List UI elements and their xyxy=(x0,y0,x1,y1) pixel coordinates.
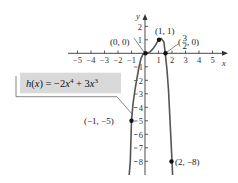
svg-text:2: 2 xyxy=(170,55,174,65)
svg-text:4: 4 xyxy=(197,55,202,65)
svg-text:3: 3 xyxy=(139,89,143,99)
svg-text:(: ( xyxy=(178,37,181,47)
point-label-root: ( 3 2 , 0) xyxy=(178,33,199,51)
svg-text:−5: −5 xyxy=(73,55,82,65)
svg-text:4: 4 xyxy=(139,103,144,113)
point-label-left: (−1, −5) xyxy=(84,116,114,126)
svg-text:2: 2 xyxy=(138,22,142,32)
point-right xyxy=(169,159,173,163)
svg-text:2: 2 xyxy=(139,76,143,86)
svg-text:1: 1 xyxy=(156,55,160,65)
function-label: h(x) = −2x4 + 3x3 xyxy=(26,77,99,90)
svg-text:3: 3 xyxy=(183,55,187,65)
x-axis-label: x xyxy=(221,58,226,68)
svg-text:−2: −2 xyxy=(113,55,122,65)
svg-text:7: 7 xyxy=(139,143,143,153)
x-tick-labels: −5 −4 −3 −2 −1 1 2 3 4 5 xyxy=(73,55,215,65)
svg-text:−1: −1 xyxy=(127,55,136,65)
point-local-max xyxy=(157,38,161,42)
y-tick-labels: 2 1 1 2 3 4 5 6 7 8 xyxy=(138,22,144,167)
svg-text:5: 5 xyxy=(139,116,143,126)
svg-text:6: 6 xyxy=(139,130,143,140)
svg-text:−4: −4 xyxy=(86,55,96,65)
point-origin xyxy=(143,51,147,55)
function-graph: x y −5 −4 −3 −2 −1 1 2 3 4 5 xyxy=(0,0,238,183)
svg-text:8: 8 xyxy=(139,157,143,167)
point-label-max: (1, 1) xyxy=(155,26,175,36)
svg-text:1: 1 xyxy=(138,35,142,45)
y-axis-label: y xyxy=(135,11,140,21)
point-left xyxy=(129,119,133,123)
point-label-right: (2, −8) xyxy=(175,157,200,167)
point-label-origin: (0, 0) xyxy=(110,37,130,47)
x-axis-arrow-icon xyxy=(222,51,228,56)
point-root xyxy=(163,51,167,55)
svg-text:, 0): , 0) xyxy=(187,37,199,47)
svg-text:5: 5 xyxy=(210,55,214,65)
svg-text:−3: −3 xyxy=(100,55,109,65)
root-leader-line xyxy=(167,44,178,52)
y-axis-arrow-icon xyxy=(143,14,148,20)
